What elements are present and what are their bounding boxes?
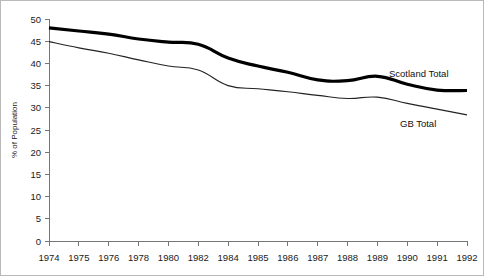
x-tick-label: 1974 [38,252,59,263]
y-tick-label: 0 [36,236,41,247]
x-tick-label: 1986 [277,252,298,263]
y-tick-label: 30 [30,102,41,113]
x-tick-label: 1984 [218,252,239,263]
y-tick-label: 20 [30,147,41,158]
x-tick-label: 1988 [337,252,358,263]
chart-figure: 05101520253035404550 1974197519761978198… [0,0,484,276]
y-tick-label: 50 [30,14,41,25]
y-tick-label: 5 [36,213,41,224]
line-chart: 05101520253035404550 1974197519761978198… [1,1,484,276]
x-tick-label: 1980 [158,252,179,263]
x-tick-label: 1990 [397,252,418,263]
y-axis-ticks: 05101520253035404550 [30,14,49,247]
y-tick-label: 35 [30,80,41,91]
y-tick-label: 10 [30,191,41,202]
x-tick-label: 1989 [367,252,388,263]
series-label-gb-total: GB Total [400,118,436,129]
x-tick-label: 1976 [98,252,119,263]
y-tick-label: 40 [30,58,41,69]
y-axis-title: % of Population [10,102,19,158]
series-label-scotland-total: Scotland Total [389,68,449,79]
x-tick-label: 1991 [427,252,448,263]
y-tick-label: 15 [30,169,41,180]
x-axis-ticks: 1974197519761978198019821984198519861987… [38,241,477,263]
x-tick-label: 1982 [188,252,209,263]
x-tick-label: 1978 [128,252,149,263]
x-tick-label: 1992 [456,252,477,263]
series-line-scotland-total [49,28,467,91]
x-tick-label: 1985 [247,252,268,263]
y-tick-label: 45 [30,36,41,47]
y-tick-label: 25 [30,125,41,136]
x-tick-label: 1975 [68,252,89,263]
x-tick-label: 1987 [307,252,328,263]
